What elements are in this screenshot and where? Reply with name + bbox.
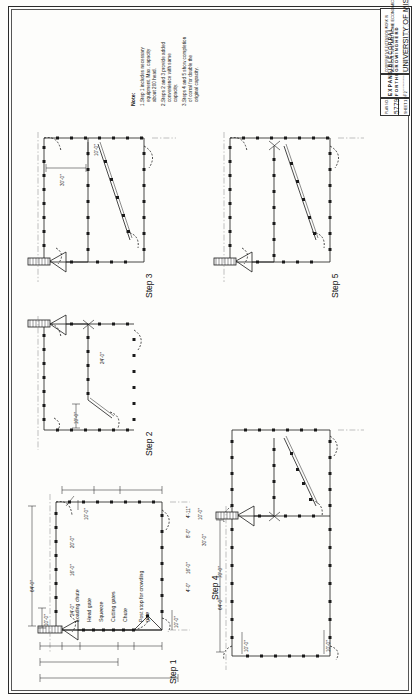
callout-head-gate: Head gate bbox=[86, 598, 92, 622]
plan-no-value: 5779 bbox=[393, 98, 400, 114]
drawing-sheet: COOPERATIVE EXTENSION WORK IN AGRICULTUR… bbox=[0, 0, 420, 700]
step-1-dim-10ft-top: 10'-0" bbox=[84, 508, 89, 520]
step-1-dim-8ft: 8'-0" bbox=[186, 529, 191, 538]
step-1-dim-10ft-alt: 10'-0" bbox=[198, 508, 203, 520]
plan-step-5: Step 5 bbox=[212, 112, 372, 302]
step-1-label: Step 1 bbox=[168, 659, 178, 684]
plan-step-1: Step 1 Loading chute Head gate Squeeze C… bbox=[22, 480, 197, 695]
plan-step-3-svg bbox=[26, 112, 186, 302]
note-3-text-1: Steps 4 and 5 show completion bbox=[182, 37, 187, 102]
note-3-text-3: original capacity. bbox=[194, 67, 199, 102]
callout-chute: Chute bbox=[122, 608, 128, 622]
title-block: COOPERATIVE EXTENSION WORK IN AGRICULTUR… bbox=[380, 8, 410, 116]
step-2-label: Step 2 bbox=[144, 431, 154, 456]
plan-no-label: PLAN NO. bbox=[385, 99, 389, 114]
step-4-dim-10ft-b: 10'-0" bbox=[326, 640, 331, 652]
drawing-title-line2: F O R T H E G R O W I N G H E R D bbox=[394, 27, 399, 96]
plan-step-5-svg bbox=[212, 112, 372, 302]
step-3-dim-10ft: 10'-0" bbox=[94, 144, 99, 156]
plan-step-4: Step 4 64'-0" 10'-0" 10'-0" bbox=[212, 420, 377, 685]
note-3-text-2: of corral for double the bbox=[188, 55, 193, 102]
fence-posts bbox=[229, 137, 332, 264]
step-1-dim-64ft: 64'-0" bbox=[30, 580, 35, 592]
callout-post-stop: Post stop for crowding gate bbox=[138, 562, 150, 622]
step-1-dim-10ft-right: 10'-0" bbox=[174, 616, 179, 628]
note-2-text-2: convenience with same bbox=[167, 53, 172, 102]
plan-step-2: Step 2 10'-0" 24'-0" bbox=[26, 300, 186, 460]
callout-squeeze: Squeeze bbox=[98, 602, 104, 622]
step-1-dim-top-16ft: 16'-0" bbox=[70, 564, 75, 576]
note-2-line-1: 2. bbox=[161, 102, 166, 106]
note-2-text-1: Steps 2 and 3 provide added bbox=[161, 42, 166, 102]
note-3-line-1: 3. bbox=[182, 102, 187, 106]
step-2-dim-10ft: 10'-0" bbox=[74, 412, 79, 424]
step-2-dim-24ft: 24'-0" bbox=[100, 352, 105, 364]
note-1-line-1: 1. bbox=[140, 102, 145, 106]
step-4-dim-64ft: 64'-0" bbox=[218, 598, 223, 610]
step-1-dim-16ft: 16'-0" bbox=[186, 562, 191, 574]
step-1-dim-4ft11: 4'-11" bbox=[186, 507, 191, 518]
notes-block: Note: 1. Step 1 includes necessary equip… bbox=[128, 10, 228, 106]
drawing-subnote: PLANS PREPARED BY AGRICULTURAL ENGINEERI… bbox=[402, 23, 404, 96]
callout-cutting-gates: Cutting gates bbox=[110, 591, 116, 622]
note-1-text-2: equipment. Max. capacity bbox=[146, 49, 151, 102]
step-1-dim-top-20ft: 20'-0" bbox=[70, 536, 75, 548]
title-smallprint-line: AND THE UNITED STATES DEPARTMENT OF AGRI… bbox=[407, 0, 409, 72]
plan-step-2-svg bbox=[26, 300, 186, 460]
step-3-dim-30ft: 30'-0" bbox=[60, 174, 65, 186]
step-5-label: Step 5 bbox=[330, 273, 340, 298]
fence-posts bbox=[231, 429, 332, 658]
plan-step-3: Step 3 30'-0" 10'-0" bbox=[26, 112, 186, 302]
step-3-label: Step 3 bbox=[144, 273, 154, 298]
step-4-label: Step 4 bbox=[210, 575, 220, 600]
fence-posts bbox=[43, 323, 136, 432]
note-1-text-3: about 200 head. bbox=[152, 68, 157, 102]
step-1-dim-10ft-left: 10'-0" bbox=[44, 614, 49, 626]
step-1-dim-4ft: 4'-0" bbox=[186, 583, 191, 592]
notes-heading: Note: bbox=[130, 92, 136, 106]
plan-step-4-svg bbox=[212, 420, 377, 685]
note-2-text-3: capacity. bbox=[173, 84, 178, 102]
step-4-dim-10ft-a: 10'-0" bbox=[244, 640, 249, 652]
note-1-text-1: Step 1 includes necessary bbox=[140, 47, 145, 102]
drawing-title-line1: E X P A N S I B L E C O R R A L bbox=[388, 29, 393, 96]
sheet-label: SHEET 1 OF 2 bbox=[404, 91, 408, 114]
step-1-dim-30ft: 30'-0" bbox=[202, 534, 207, 546]
step-1-dim-70ft: 70'-0" bbox=[218, 566, 223, 578]
step-1-dim-top-24ft: 24'-0" bbox=[70, 604, 75, 616]
